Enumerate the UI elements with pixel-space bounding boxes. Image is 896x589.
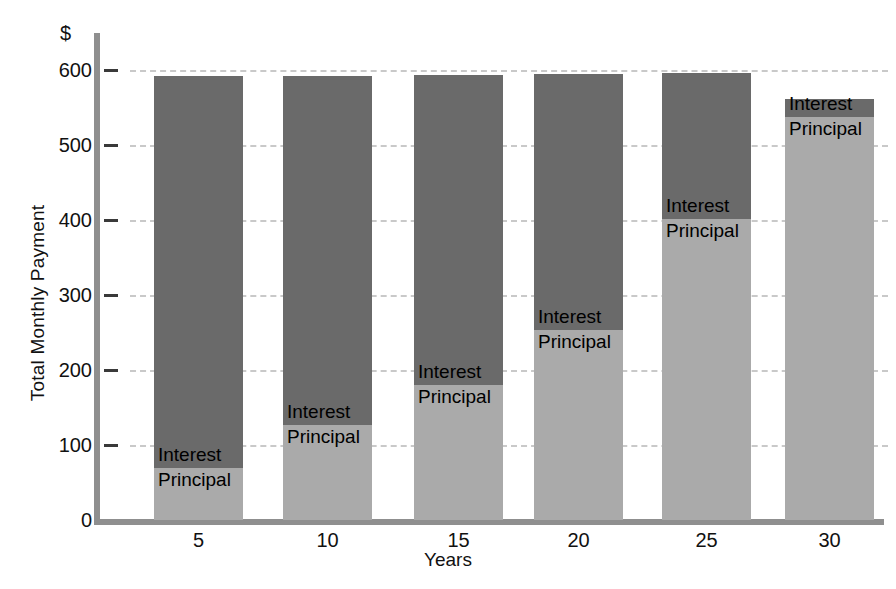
segment-label-interest: Interest: [418, 361, 481, 383]
segment-label-interest: Interest: [158, 444, 221, 466]
segment-label-principal: Principal: [418, 386, 491, 408]
bar-segment-interest[interactable]: Interest: [283, 76, 372, 425]
bar-segment-interest[interactable]: Interest: [662, 73, 751, 219]
x-axis-title: Years: [0, 549, 896, 571]
bar-segment-interest[interactable]: Interest: [414, 75, 503, 385]
segment-label-principal: Principal: [538, 331, 611, 353]
stacked-bar[interactable]: PrincipalInterest: [154, 76, 243, 520]
segment-label-interest: Interest: [789, 93, 852, 115]
bar-segment-principal[interactable]: Principal: [534, 330, 623, 520]
bar-segment-principal[interactable]: Principal: [662, 219, 751, 521]
segment-label-principal: Principal: [666, 220, 739, 242]
stacked-bar[interactable]: PrincipalInterest: [534, 74, 623, 520]
bar-segment-interest[interactable]: Interest: [785, 99, 874, 117]
bar-segment-principal[interactable]: Principal: [283, 425, 372, 520]
stacked-bar[interactable]: PrincipalInterest: [785, 99, 874, 520]
segment-label-interest: Interest: [666, 195, 729, 217]
bar-segment-principal[interactable]: Principal: [414, 385, 503, 520]
chart-canvas: Total Monthly Payment $ 0100200300400500…: [0, 0, 896, 589]
bar-segment-principal[interactable]: Principal: [154, 468, 243, 521]
bar-segment-interest[interactable]: Interest: [154, 76, 243, 468]
segment-label-principal: Principal: [158, 469, 231, 491]
bar-segment-interest[interactable]: Interest: [534, 74, 623, 331]
stacked-bar[interactable]: PrincipalInterest: [414, 75, 503, 520]
segment-label-interest: Interest: [287, 401, 350, 423]
stacked-bar[interactable]: PrincipalInterest: [283, 76, 372, 520]
segment-label-interest: Interest: [538, 306, 601, 328]
bar-segment-principal[interactable]: Principal: [785, 117, 874, 520]
segment-label-principal: Principal: [287, 426, 360, 448]
stacked-bar[interactable]: PrincipalInterest: [662, 73, 751, 520]
bar-series-group: PrincipalInterestPrincipalInterestPrinci…: [0, 0, 896, 589]
segment-label-principal: Principal: [789, 118, 862, 140]
